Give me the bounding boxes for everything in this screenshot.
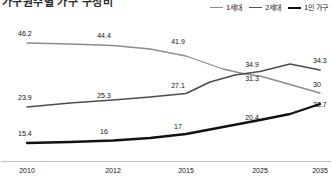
x-axis-tick-2025: 2025	[252, 166, 268, 175]
data-label-1in-gagu-2: 17	[174, 123, 182, 131]
legend-item-1sedae[interactable]: 1세대	[210, 4, 242, 12]
data-label-1in-gagu-1: 16	[100, 128, 108, 136]
data-label-1in-gagu-3: 20.4	[245, 114, 259, 122]
legend-swatch-1sedae	[210, 7, 223, 8]
page-title-strip: 가구원수별 가구 구성비	[0, 0, 190, 7]
x-axis-line	[1, 161, 331, 162]
page-title: 가구원수별 가구 구성비	[2, 0, 113, 7]
legend-label-1sedae: 1세대	[226, 4, 242, 12]
legend-item-2sedae[interactable]: 2세대	[249, 4, 281, 12]
data-label-2sedae-2: 27.1	[171, 82, 185, 90]
x-axis-tick-2012: 2012	[105, 166, 121, 175]
legend-label-2sedae: 2세대	[265, 4, 281, 12]
x-axis-tick-2015: 2015	[178, 166, 194, 175]
data-label-2sedae-1: 25.3	[97, 92, 111, 100]
data-label-2sedae-0: 23.9	[18, 94, 32, 102]
data-label-1sedae-2: 41.9	[171, 38, 185, 46]
data-label-1in-gagu-0: 15.4	[18, 130, 32, 138]
data-label-1sedae-0: 46.2	[18, 30, 32, 38]
data-label-1sedae-3: 34.9	[245, 61, 259, 69]
legend-swatch-2sedae	[249, 7, 262, 8]
data-label-1sedae-1: 44.4	[97, 32, 111, 40]
chart-legend: 1세대 2세대 1인 가구	[210, 2, 328, 13]
legend-label-1in-gagu: 1인 가구	[304, 4, 328, 12]
chart-svg	[0, 16, 332, 161]
data-label-1in-gagu-4: 22.7	[313, 101, 327, 109]
plot-area: 46.244.441.934.93023.925.327.131.334.315…	[0, 16, 332, 161]
data-label-2sedae-4: 34.3	[313, 57, 327, 65]
x-axis-tick-2035: 2035	[312, 166, 328, 175]
x-axis-tick-2010: 2010	[19, 166, 35, 175]
line-chart: 가구원수별 가구 구성비 1세대 2세대 1인 가구 46.244.441.93…	[0, 0, 332, 189]
legend-swatch-1in-gagu	[288, 7, 301, 9]
legend-item-1in-gagu[interactable]: 1인 가구	[288, 4, 328, 12]
x-axis-tick-labels: 20102012201520252035	[0, 166, 332, 180]
data-label-2sedae-3: 31.3	[245, 75, 259, 83]
data-label-1sedae-4: 30	[313, 81, 321, 89]
